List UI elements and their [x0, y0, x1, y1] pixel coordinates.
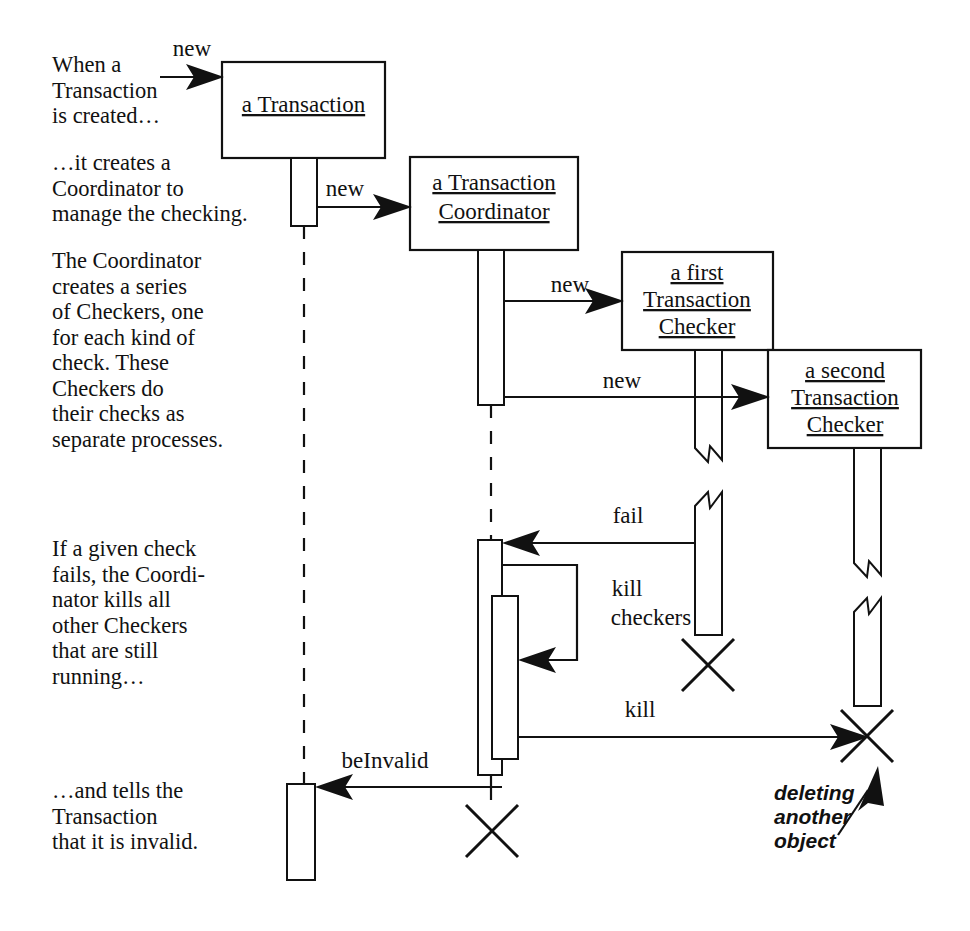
message-label-kill-checkers-line2: checkers [611, 605, 691, 630]
message-label-create-checker1: new [551, 272, 590, 297]
annotation-arrowhead-icon [858, 766, 884, 811]
message-create-coordinator[interactable]: new [317, 176, 412, 220]
activation-bar-checker1-lower [695, 492, 722, 635]
activation-bar-coordinator-nested [492, 596, 518, 759]
activation-bar-transaction-2 [287, 784, 315, 880]
message-label-kill-checkers-line1: kill [612, 576, 643, 601]
message-kill[interactable]: kill [518, 697, 869, 750]
message-create-checker2[interactable]: new [504, 368, 770, 410]
activation-bar-checker2-lower [854, 598, 881, 706]
message-label-create-coordinator: new [326, 176, 365, 201]
destruction-x-checker1 [682, 639, 734, 691]
annotation-label-line2: another [774, 805, 853, 828]
annotation-label-line1: deleting [774, 781, 855, 804]
object-label-checker1-line2: Transaction [643, 287, 751, 312]
message-fail[interactable]: fail [502, 503, 695, 556]
message-label-create-transaction: new [173, 36, 212, 61]
lifeline-coordinator: a Transaction Coordinator [410, 157, 578, 857]
object-label-checker1-line3: Checker [659, 314, 736, 339]
annotation-label-line3: object [774, 829, 837, 852]
message-label-be-invalid: beInvalid [342, 748, 429, 773]
message-create-transaction[interactable]: new [160, 36, 224, 90]
destruction-x-coordinator [466, 805, 518, 857]
annotation-deleting-another-object: deleting another object [774, 766, 884, 852]
activation-bar-transaction-1 [291, 158, 317, 226]
activation-bar-coordinator-1 [478, 250, 504, 405]
message-kill-checkers-self[interactable]: kill checkers [502, 565, 691, 673]
object-label-transaction: a Transaction [242, 92, 366, 117]
sequence-diagram-page: When a Transaction is created… …it creat… [0, 0, 970, 931]
object-label-checker2-line1: a second [805, 358, 885, 383]
object-label-coordinator-line1: a Transaction [432, 170, 556, 195]
message-label-kill: kill [625, 697, 656, 722]
message-be-invalid[interactable]: beInvalid [315, 748, 502, 800]
activation-bar-checker1-upper [695, 350, 722, 462]
message-label-create-checker2: new [603, 368, 642, 393]
object-label-checker1-line1: a first [670, 260, 724, 285]
message-label-fail: fail [613, 503, 644, 528]
object-label-checker2-line2: Transaction [791, 385, 899, 410]
message-create-checker1[interactable]: new [504, 272, 624, 314]
diagram-canvas: a Transaction new a Transaction Coordina… [0, 0, 970, 931]
object-label-checker2-line3: Checker [807, 412, 884, 437]
activation-bar-checker2-upper [854, 448, 881, 577]
lifeline-checker2: a second Transaction Checker [768, 350, 921, 762]
object-label-coordinator-line2: Coordinator [438, 199, 549, 224]
